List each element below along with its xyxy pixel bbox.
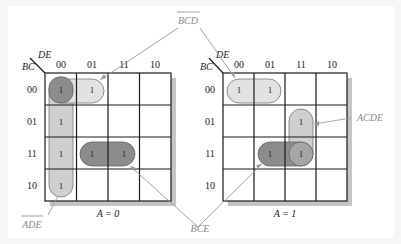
svg-text:10: 10 (27, 180, 37, 191)
term-acde-label: ACDE (356, 112, 383, 123)
svg-text:01: 01 (205, 116, 215, 127)
cell: 1 (90, 85, 95, 95)
term-bcd-label: BCD (177, 12, 200, 26)
svg-text:11: 11 (205, 148, 215, 159)
left-row-labels: 00 01 11 10 (27, 84, 37, 191)
svg-text:01: 01 (27, 116, 37, 127)
right-col-var: DE (215, 49, 229, 60)
left-caption: A = 0 (96, 208, 120, 219)
cell: 1 (268, 149, 273, 159)
svg-text:00: 00 (27, 84, 37, 95)
cell: 1 (59, 149, 64, 159)
svg-text:11: 11 (27, 148, 37, 159)
right-row-labels: 00 01 11 10 (205, 84, 215, 191)
term-bce-label: BCE (191, 223, 210, 234)
svg-text:10: 10 (205, 180, 215, 191)
svg-text:00: 00 (205, 84, 215, 95)
cell: 1 (59, 181, 64, 191)
svg-text:10: 10 (327, 59, 337, 70)
cell: 1 (299, 117, 304, 127)
right-col-labels: 00 01 11 10 (234, 59, 337, 70)
term-ade-label: ADE (21, 216, 43, 230)
right-row-var: BC (200, 61, 213, 72)
karnaugh-maps: DE BC 00 01 11 10 00 01 11 10 1 1 1 1 1 … (0, 0, 401, 244)
svg-text:BCD: BCD (178, 15, 199, 26)
svg-text:10: 10 (150, 59, 160, 70)
svg-text:00: 00 (234, 59, 244, 70)
right-caption: A = 1 (273, 208, 297, 219)
cell: 1 (122, 149, 127, 159)
svg-text:ADE: ADE (21, 219, 41, 230)
svg-text:00: 00 (56, 59, 66, 70)
svg-text:01: 01 (87, 59, 97, 70)
svg-text:01: 01 (265, 59, 275, 70)
cell: 1 (59, 117, 64, 127)
svg-text:11: 11 (296, 59, 306, 70)
cell: 1 (299, 149, 304, 159)
cell: 1 (59, 85, 64, 95)
left-col-var: DE (37, 49, 51, 60)
left-col-labels: 00 01 11 10 (56, 59, 160, 70)
cell: 1 (90, 149, 95, 159)
cell: 1 (237, 85, 242, 95)
left-row-var: BC (22, 61, 35, 72)
cell: 1 (268, 85, 273, 95)
